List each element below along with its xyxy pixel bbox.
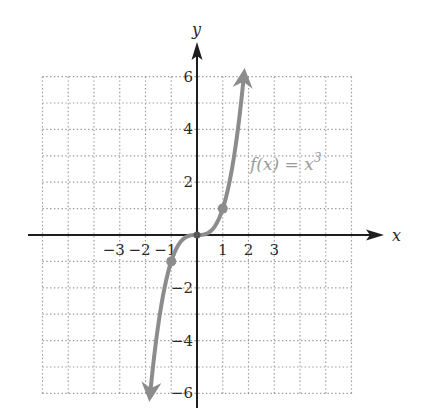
x-tick-label: 2 — [244, 241, 254, 259]
axes: x y — [28, 20, 401, 408]
marked-point — [166, 256, 176, 266]
y-tick-label: −6 — [171, 384, 193, 402]
marked-point — [218, 204, 228, 214]
y-tick-label: −4 — [171, 332, 193, 350]
y-axis-label: y — [191, 20, 202, 39]
x-axis-label: x — [392, 226, 401, 245]
x-tick-label: −3 — [103, 241, 125, 259]
x-tick-label: 3 — [269, 241, 279, 259]
y-tick-label: 2 — [183, 173, 193, 191]
y-tick-label: 6 — [183, 68, 193, 86]
function-label: f(x) = x3 — [248, 151, 322, 174]
function-graph: x y −3−2−1123642−2−4−6 f(x) = x3 — [0, 0, 432, 419]
y-tick-label: 4 — [183, 120, 193, 138]
function-label-name: f(x) = x — [248, 154, 314, 174]
plot-area: x y −3−2−1123642−2−4−6 f(x) = x3 — [0, 0, 432, 419]
y-tick-label: −2 — [171, 279, 193, 297]
x-tick-label: 1 — [218, 241, 228, 259]
x-tick-label: −2 — [128, 241, 150, 259]
marked-point — [194, 232, 201, 239]
function-label-exponent: 3 — [314, 151, 322, 165]
